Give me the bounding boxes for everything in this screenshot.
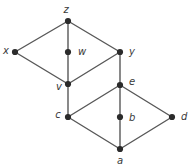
node-y [117, 49, 123, 55]
edge-x-v [15, 52, 68, 84]
node-label-x: x [2, 45, 9, 56]
node-x [12, 49, 18, 55]
node-label-v: v [56, 81, 63, 92]
edge-e-d [120, 85, 172, 117]
node-b [117, 114, 123, 120]
node-v [65, 81, 71, 87]
node-label-e: e [129, 76, 135, 87]
node-label-w: w [78, 46, 87, 57]
node-label-y: y [128, 46, 136, 57]
node-c [65, 114, 71, 120]
edge-e-c [68, 85, 120, 117]
node-label-b: b [129, 112, 135, 123]
node-label-c: c [55, 109, 61, 120]
node-label-a: a [117, 155, 123, 166]
node-a [117, 146, 123, 152]
label-layer: zxwyvecbda [2, 4, 188, 166]
node-d [169, 114, 175, 120]
node-label-z: z [62, 4, 69, 15]
edge-d-a [120, 117, 172, 149]
edge-layer [15, 21, 172, 149]
edge-z-y [68, 21, 120, 52]
diagram-canvas: zxwyvecbda [0, 0, 189, 168]
edge-y-v [68, 52, 120, 84]
edge-z-x [15, 21, 68, 52]
node-label-d: d [181, 111, 188, 122]
node-e [117, 82, 123, 88]
edge-c-a [68, 117, 120, 149]
node-z [65, 18, 71, 24]
hasse-diagram: zxwyvecbda [0, 0, 189, 168]
node-w [65, 49, 71, 55]
